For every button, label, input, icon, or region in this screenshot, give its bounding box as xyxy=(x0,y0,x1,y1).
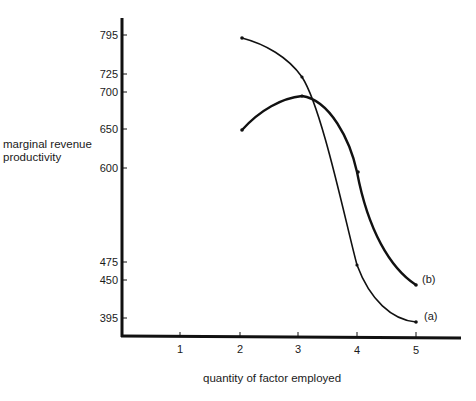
svg-text:650: 650 xyxy=(100,123,118,135)
series-a-label: (a) xyxy=(424,310,437,322)
series-b-label: (b) xyxy=(422,273,435,285)
x-axis-label: quantity of factor employed xyxy=(203,372,341,384)
y-axis-label: marginal revenue productivity xyxy=(3,138,103,164)
svg-text:5: 5 xyxy=(413,344,419,356)
svg-text:795: 795 xyxy=(100,29,118,41)
svg-text:395: 395 xyxy=(100,312,118,324)
x-axis xyxy=(121,336,461,338)
svg-text:725: 725 xyxy=(100,68,118,80)
svg-text:475: 475 xyxy=(100,256,118,268)
y-tick-labels: 795 725 700 650 600 475 450 395 xyxy=(100,29,118,324)
svg-text:700: 700 xyxy=(100,86,118,98)
series-b-points xyxy=(240,94,418,286)
svg-text:2: 2 xyxy=(237,343,243,355)
series-a-line xyxy=(242,38,416,322)
series-a-points xyxy=(240,36,418,324)
svg-text:450: 450 xyxy=(100,274,118,286)
x-tick-labels: 1 2 3 4 5 xyxy=(177,343,419,356)
svg-text:1: 1 xyxy=(177,343,183,355)
series-b-line xyxy=(242,96,416,285)
svg-text:4: 4 xyxy=(354,344,360,356)
svg-text:3: 3 xyxy=(295,343,301,355)
chart-canvas: 795 725 700 650 600 475 450 395 1 2 3 4 … xyxy=(0,0,476,401)
